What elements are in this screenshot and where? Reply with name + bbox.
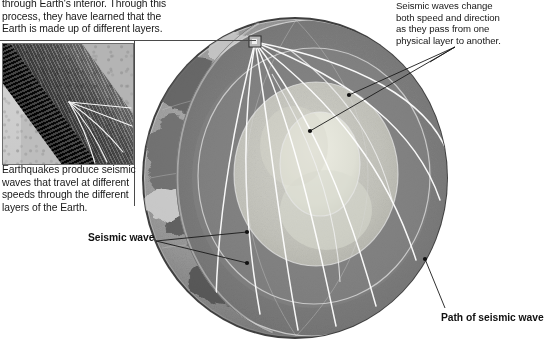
seismic-waves-change-callout: Seismic waves change both speed and dire… <box>396 0 536 46</box>
inset-caption-line-1: Earthquakes produce seismic <box>2 164 134 177</box>
intro-line-1: through Earth's interior. Through this <box>2 0 254 11</box>
intro-line-3: Earth is made up of different layers. <box>2 23 254 36</box>
inset-caption-line-3: speeds through the different <box>2 189 134 202</box>
vertical-divider <box>134 40 135 206</box>
callout-line-1: Seismic waves change <box>396 0 536 12</box>
earthquake-epicenter-marker <box>249 36 261 47</box>
crust-closeup-inset-image <box>2 43 134 165</box>
horizontal-divider <box>0 40 256 41</box>
intro-paragraph: through Earth's interior. Through this p… <box>2 0 254 36</box>
callout-line-3: as they pass from one <box>396 23 536 35</box>
inset-caption-line-4: layers of the Earth. <box>2 202 134 215</box>
seismic-wave-label: Seismic wave <box>88 232 154 243</box>
intro-line-2: process, they have learned that the <box>2 11 254 24</box>
inset-ray-lines <box>3 44 133 164</box>
earth-cutaway-illustration <box>140 14 456 342</box>
callout-line-4: physical layer to another. <box>396 35 536 47</box>
inset-caption-line-2: waves that travel at different <box>2 177 134 190</box>
callout-line-2: both speed and direction <box>396 12 536 24</box>
inset-caption: Earthquakes produce seismic waves that t… <box>2 164 134 214</box>
path-of-seismic-wave-label: Path of seismic wave <box>441 312 544 323</box>
